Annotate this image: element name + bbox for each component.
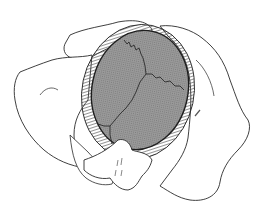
pelvis-fetal-head-illustration [0, 0, 263, 215]
diagram-canvas [0, 0, 263, 215]
